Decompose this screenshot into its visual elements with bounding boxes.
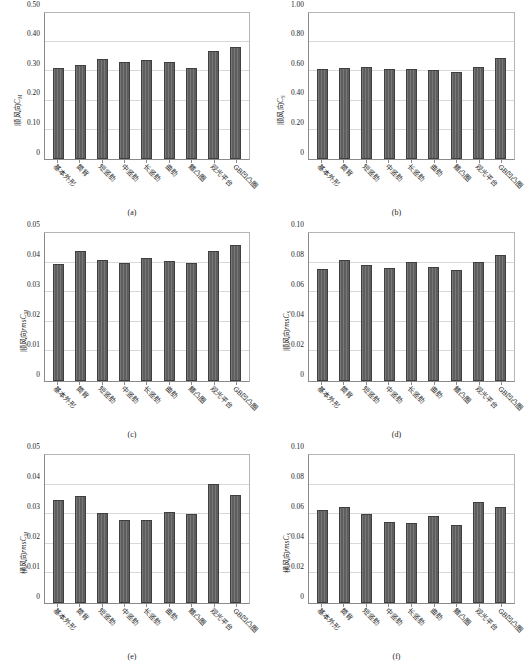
chart-panel-d: 00.020.040.060.080.10顺风向rmsCS基本外形筒背短竖肋中竖… <box>264 220 529 442</box>
bar <box>361 514 372 603</box>
x-axis-tick-label: 筒背 <box>339 385 354 400</box>
y-axis-tick-label: 0.02 <box>27 533 40 540</box>
y-axis-label: 顺风向rmsCM <box>18 310 29 353</box>
bar <box>53 500 64 603</box>
panel-caption: (f) <box>264 652 529 661</box>
y-axis-label: 顺风向CM <box>12 94 23 125</box>
x-axis-tick-label: 鳍凸圈 <box>452 607 472 627</box>
x-axis-tick-label: 筒背 <box>75 385 90 400</box>
y-axis-tick-label: 0 <box>36 149 40 156</box>
bar <box>119 263 130 381</box>
y-axis-tick-label: 0.03 <box>27 503 40 510</box>
y-axis-tick-label: 0.04 <box>27 251 40 258</box>
bar <box>53 68 64 159</box>
plot-area <box>44 232 250 382</box>
bar <box>75 251 86 381</box>
x-axis-tick-label: 基本外形 <box>52 163 77 188</box>
multi-panel-bar-chart-figure: 00.100.200.300.400.50顺风向CM基本外形筒背短竖肋中竖肋长竖… <box>0 0 529 664</box>
bar <box>75 496 86 603</box>
plot-area <box>308 12 515 160</box>
bar-series <box>309 13 514 159</box>
x-axis-tick-label: 观光平台 <box>474 163 499 188</box>
x-axis-tick-label: 观光平台 <box>209 385 234 410</box>
panel-caption: (a) <box>0 208 264 217</box>
bar <box>186 514 197 603</box>
x-axis-tick-label: 鳍凸圈 <box>452 385 472 405</box>
plot-area <box>44 454 250 604</box>
y-axis-tick-label: 0.02 <box>291 341 304 348</box>
x-axis-tick-label: 短竖肋 <box>361 607 381 627</box>
bar <box>451 72 462 159</box>
bar <box>317 269 328 381</box>
y-axis-tick-label: 0.10 <box>291 443 304 450</box>
plot-wrapper: 00.010.020.030.040.05 <box>44 454 250 604</box>
x-axis-tick-label: 基本外形 <box>52 385 77 410</box>
y-axis-tick-label: 0.03 <box>27 281 40 288</box>
bar <box>473 262 484 381</box>
bar-series <box>45 13 249 159</box>
x-axis-tick-label: 短竖肋 <box>361 163 381 183</box>
bar-series <box>309 455 514 603</box>
panel-caption: (b) <box>264 208 529 217</box>
x-axis-tick-label: 观光平台 <box>474 607 499 632</box>
y-axis-label: 顺风向CS <box>275 95 286 124</box>
x-axis-tick-label: 短竖肋 <box>97 607 117 627</box>
bar <box>428 70 439 159</box>
bar <box>406 262 417 381</box>
bar <box>75 65 86 159</box>
x-axis-tick-label: 长竖肋 <box>407 163 427 183</box>
bar <box>141 60 152 159</box>
x-axis-tick-label: 长竖肋 <box>407 607 427 627</box>
bar-series <box>309 233 514 381</box>
bar <box>339 507 350 603</box>
bar <box>141 258 152 381</box>
bar <box>119 520 130 603</box>
x-axis-tick-label: 曲肋 <box>429 607 444 622</box>
x-axis-tick-label: 中竖肋 <box>384 607 404 627</box>
y-axis-tick-label: 0 <box>300 593 304 600</box>
y-axis-tick-label: 0.04 <box>27 473 40 480</box>
x-axis-tick-label: 长竖肋 <box>142 163 162 183</box>
bar <box>451 270 462 381</box>
y-axis-tick-label: 0.20 <box>27 90 40 97</box>
x-axis-tick-label: 鳍凸圈 <box>452 163 472 183</box>
y-axis-label: 横风向rmsCM <box>18 532 29 575</box>
y-axis-label: 横风向rmsCS <box>281 533 292 574</box>
y-axis-tick-label: 0.80 <box>291 31 304 38</box>
x-axis-tick-label: 短竖肋 <box>97 385 117 405</box>
y-axis-tick-label: 0.01 <box>27 563 40 570</box>
y-axis-tick-label: 0.04 <box>291 311 304 318</box>
bar <box>230 495 241 603</box>
y-axis-tick-label: 0.60 <box>291 60 304 67</box>
x-axis-tick-label: 短竖肋 <box>97 163 117 183</box>
bar <box>53 264 64 382</box>
bar <box>339 260 350 382</box>
chart-panel-a: 00.100.200.300.400.50顺风向CM基本外形筒背短竖肋中竖肋长竖… <box>0 0 264 220</box>
x-axis-tick-label: 曲肋 <box>164 607 179 622</box>
x-axis-tick-label: 曲肋 <box>164 163 179 178</box>
bar <box>361 67 372 159</box>
y-axis-tick-label: 0.02 <box>27 311 40 318</box>
x-axis-tick-label: 观光平台 <box>209 607 234 632</box>
chart-panel-c: 00.010.020.030.040.05顺风向rmsCM基本外形筒背短竖肋中竖… <box>0 220 264 442</box>
bar <box>97 513 108 603</box>
y-axis-tick-label: 0.40 <box>291 90 304 97</box>
chart-panel-b: 00.200.400.600.801.00顺风向CS基本外形筒背短竖肋中竖肋长竖… <box>264 0 529 220</box>
bar <box>164 512 175 603</box>
bar <box>186 263 197 381</box>
bar <box>97 59 108 159</box>
y-axis-tick-label: 0.40 <box>27 31 40 38</box>
x-axis-tick-label: 中竖肋 <box>384 163 404 183</box>
x-axis-tick-label: GB凹凸圈 <box>497 163 524 190</box>
y-axis-tick-label: 0.08 <box>291 251 304 258</box>
bar <box>361 265 372 381</box>
x-axis-tick-label: GB凹凸圈 <box>232 163 259 190</box>
bar <box>406 69 417 159</box>
bar <box>208 51 219 159</box>
x-axis-tick-label: 鳍凸圈 <box>187 163 207 183</box>
bar <box>495 58 506 159</box>
y-axis-tick-label: 0.20 <box>291 119 304 126</box>
x-axis-tick-label: 中竖肋 <box>120 385 140 405</box>
panel-caption: (c) <box>0 430 264 439</box>
y-axis-tick-label: 0 <box>300 371 304 378</box>
